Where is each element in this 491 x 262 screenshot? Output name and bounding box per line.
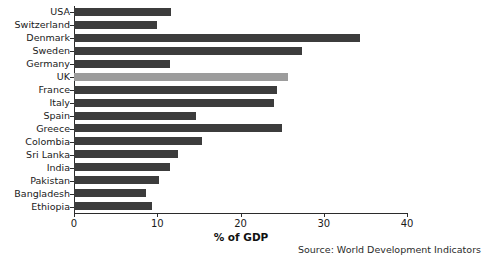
bar-row: [74, 135, 407, 148]
x-axis-tick: [241, 213, 242, 217]
category-label-usa: USA: [0, 7, 70, 17]
bar-row: [74, 84, 407, 97]
category-label-spain: Spain: [0, 111, 70, 121]
bar-row: [74, 174, 407, 187]
x-axis-tick: [157, 213, 158, 217]
bar-germany: [74, 60, 170, 68]
category-label-bangladesh: Bangladesh: [0, 189, 70, 199]
x-axis-tick-label-30: 30: [309, 218, 339, 230]
category-label-germany: Germany: [0, 59, 70, 69]
bar-colombia: [74, 137, 202, 145]
bar-row: [74, 161, 407, 174]
bar-row: [74, 148, 407, 161]
bar-row: [74, 58, 407, 71]
bar-sri-lanka: [74, 150, 178, 158]
x-axis-tick: [74, 213, 75, 217]
bar-denmark: [74, 34, 360, 42]
bar-rows: [74, 6, 407, 213]
category-label-pakistan: Pakistan: [0, 176, 70, 186]
source-note: Source: World Development Indicators: [298, 244, 481, 255]
bar-row: [74, 200, 407, 213]
bar-row: [74, 110, 407, 123]
bar-ethiopia: [74, 202, 152, 210]
bar-india: [74, 163, 170, 171]
bar-france: [74, 86, 277, 94]
bar-row: [74, 187, 407, 200]
bar-greece: [74, 124, 282, 132]
x-axis-tick-label-10: 10: [142, 218, 172, 230]
x-axis-tick-label-40: 40: [392, 218, 422, 230]
bar-usa: [74, 8, 171, 16]
x-axis-tick-label-0: 0: [59, 218, 89, 230]
bar-sweden: [74, 47, 302, 55]
bar-bangladesh: [74, 189, 146, 197]
bar-italy: [74, 99, 274, 107]
bar-row: [74, 45, 407, 58]
category-label-uk: UK: [0, 72, 70, 82]
bar-row: [74, 97, 407, 110]
bar-spain: [74, 112, 196, 120]
bar-row: [74, 19, 407, 32]
bar-row: [74, 32, 407, 45]
x-axis-tick-label-20: 20: [226, 218, 256, 230]
x-axis-tick: [407, 213, 408, 217]
category-label-colombia: Colombia: [0, 137, 70, 147]
bar-pakistan: [74, 176, 159, 184]
category-label-ethiopia: Ethiopia: [0, 202, 70, 212]
bar-switzerland: [74, 21, 157, 29]
x-axis-tick: [324, 213, 325, 217]
bar-row: [74, 71, 407, 84]
plot-area: [74, 6, 407, 213]
bar-uk: [74, 73, 288, 81]
category-label-greece: Greece: [0, 124, 70, 134]
category-label-sri-lanka: Sri Lanka: [0, 150, 70, 160]
category-label-switzerland: Switzerland: [0, 20, 70, 30]
category-label-france: France: [0, 85, 70, 95]
bar-chart: USASwitzerlandDenmarkSwedenGermanyUKFran…: [0, 0, 491, 262]
category-label-denmark: Denmark: [0, 33, 70, 43]
bar-row: [74, 6, 407, 19]
category-label-india: India: [0, 163, 70, 173]
y-axis-category-labels: USASwitzerlandDenmarkSwedenGermanyUKFran…: [0, 6, 70, 213]
x-axis-title: % of GDP: [74, 231, 408, 243]
category-label-italy: Italy: [0, 98, 70, 108]
bar-row: [74, 122, 407, 135]
category-label-sweden: Sweden: [0, 46, 70, 56]
